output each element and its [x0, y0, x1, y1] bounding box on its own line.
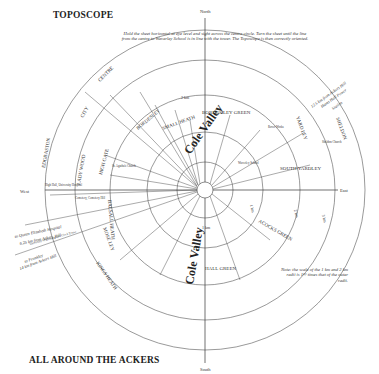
district-kings-heath: KINGS HEATH: [95, 261, 118, 291]
ring-label-2km-east: 2 km: [293, 209, 300, 219]
district-south-yardley: SOUTH YARDLEY: [280, 166, 321, 171]
district-ladywood: LADY WOOD: [76, 154, 86, 185]
compass-west: West: [20, 189, 30, 194]
toposcope-diagram: North South East West 2 km 1 km 1 km 2 k…: [0, 0, 379, 374]
district-sheldon: SHELDON: [335, 117, 348, 141]
svg-text:Rover Works: Rover Works: [268, 125, 285, 129]
compass-east: East: [340, 188, 348, 193]
river-label-south: Cole Valley: [182, 226, 206, 285]
district-edgbaston: EDGBASTON: [41, 137, 51, 168]
centre-circle: [197, 182, 213, 198]
district-yardley: YARD LEY: [295, 116, 308, 141]
district-city: CITY: [80, 106, 90, 119]
compass-axes: [45, 18, 338, 363]
compass-south: South: [200, 367, 211, 372]
ring-label-3km-east: 3 km: [321, 214, 328, 224]
compass-north: North: [200, 9, 211, 14]
svg-text:High Hall, University Hospital: High Hall, University Hospital: [45, 183, 82, 188]
svg-text:Waverley School: Waverley School: [238, 161, 259, 165]
ring-label-1km-east: 1 km: [249, 204, 256, 214]
svg-text:Cemetery, Cemetery Hill: Cemetery, Cemetery Hill: [75, 196, 105, 201]
district-bordesley-green: BORDES LEY GREEN: [202, 110, 251, 115]
svg-text:Sheldon Church: Sheldon Church: [322, 140, 342, 144]
district-highgate: HIGH GATE: [98, 148, 110, 175]
svg-text:St. Agatha's Church: St. Agatha's Church: [112, 164, 136, 168]
ring-label-2km: 2 km: [181, 95, 190, 100]
district-bordesley: BORDESLEY: [135, 108, 161, 131]
district-small-heath: SMALL HEATH: [162, 114, 196, 131]
pointer-frankley: to Frankley 14 km from Ackers Hill: [19, 253, 58, 271]
district-centre: CENTRE: [97, 65, 114, 82]
district-hall-green: HALL GREEN: [205, 266, 236, 271]
pointer-hams-hall: 12.5 km from Ackers Hill Hams Hall Power…: [310, 80, 348, 111]
district-acocks-green: ACOCKS GREEN: [258, 219, 294, 243]
